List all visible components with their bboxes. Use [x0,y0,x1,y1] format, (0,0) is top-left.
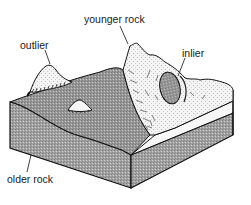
younger-rock-label: younger rock [84,14,145,25]
older-rock-label: older rock [7,174,53,185]
inlier-label: inlier [182,48,204,59]
outlier-label: outlier [20,40,49,51]
block-diagram: younger rock outlier inlier older rock [0,0,251,205]
